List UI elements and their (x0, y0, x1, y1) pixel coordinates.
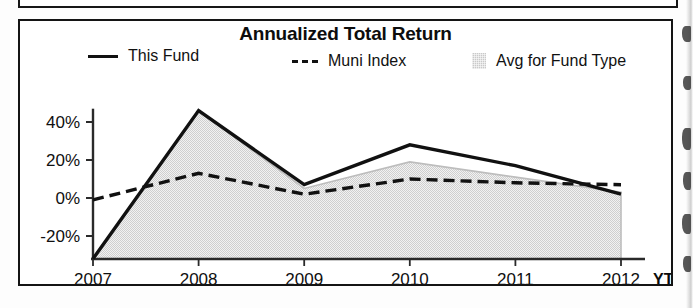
legend-item-muni-index: Muni Index (292, 52, 406, 70)
series-avg-for-fund-type-area (93, 111, 621, 259)
x-axis-tick-label: 2008 (180, 270, 218, 284)
adjacent-panel-fragment (18, 0, 678, 8)
scan-artifact-mark (683, 172, 691, 190)
y-axis-tick-label: 0% (55, 189, 80, 208)
chart-panel: Annualized Total Return This Fund Muni I… (18, 19, 673, 286)
legend-label-this-fund: This Fund (128, 47, 199, 65)
x-axis-tick-label: 2011 (497, 270, 534, 284)
scan-artifact-mark (683, 256, 691, 272)
scan-artifact-mark (682, 214, 691, 234)
shaded-area-swatch-icon (472, 53, 486, 69)
legend-item-avg-fund-type: Avg for Fund Type (472, 52, 626, 70)
legend-label-muni-index: Muni Index (328, 52, 406, 70)
page-root: Annualized Total Return This Fund Muni I… (0, 0, 693, 308)
chart-plot-svg: 40%20%0%-20% 200720082009201020112012YTD (20, 71, 671, 284)
solid-line-swatch-icon (88, 55, 118, 58)
scan-artifact-mark (682, 128, 691, 150)
x-axis-ytd-label: YTD (653, 271, 671, 284)
x-axis-tick-label: 2007 (74, 270, 112, 284)
plot-area: 40%20%0%-20% 200720082009201020112012YTD (20, 71, 671, 284)
x-axis-tick-label: 2009 (285, 270, 323, 284)
y-axis-tick-label: 20% (46, 151, 80, 170)
x-axis-tick-label: 2010 (391, 270, 429, 284)
scan-artifact-mark (682, 26, 691, 42)
dashed-line-swatch-icon (292, 60, 318, 63)
chart-legend: This Fund Muni Index Avg for Fund Type (20, 47, 671, 73)
y-axis-tick-labels: 40%20%0%-20% (40, 113, 80, 246)
legend-label-avg-fund-type: Avg for Fund Type (496, 52, 626, 70)
legend-item-this-fund: This Fund (88, 47, 199, 65)
x-axis-tick-labels: 200720082009201020112012YTD (74, 270, 671, 284)
chart-title: Annualized Total Return (20, 23, 671, 45)
y-axis-tick-label: -20% (40, 227, 80, 246)
scan-artifact-mark (683, 76, 691, 90)
x-axis-tick-label: 2012 (602, 270, 640, 284)
y-axis-tick-label: 40% (46, 113, 80, 132)
